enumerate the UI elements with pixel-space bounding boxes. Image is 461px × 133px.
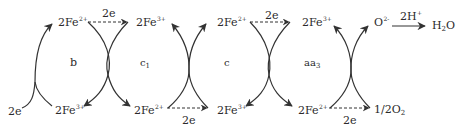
half-oxygen-label: 1/2O2 xyxy=(374,104,405,117)
b-bottom-fe3plus: 2Fe3+ xyxy=(55,104,85,116)
aa3-bottom-fe2plus: 2Fe2+ xyxy=(298,104,328,116)
c1-c-electron-transfer: 2e xyxy=(182,115,196,126)
c1-top-fe3plus: 2Fe3+ xyxy=(136,16,166,28)
c1-bottom-fe2plus: 2Fe2+ xyxy=(134,104,164,116)
aa3-top-fe3plus: 2Fe3+ xyxy=(302,16,332,28)
water-label: H2O xyxy=(432,20,455,33)
arrow-c1-reduction xyxy=(107,22,130,106)
cytochrome-c-label: c xyxy=(224,58,230,68)
b-input-electrons: 2e xyxy=(8,106,22,117)
cytochrome-c1-label: c1 xyxy=(140,58,150,70)
arrow-aa3-oxidation xyxy=(330,26,351,108)
arrow-oxygen-reduction xyxy=(351,26,370,108)
arrow-c-reduction xyxy=(189,24,208,108)
c-top-fe2plus: 2Fe2+ xyxy=(217,16,247,28)
electron-transport-chain-diagram: 2Fe2+ 2Fe3+ 2e b 2e 2Fe3+ 2Fe2+ c1 2e 2F… xyxy=(0,0,461,133)
arrow-b-oxidation xyxy=(84,22,109,106)
oxide-ion-label: O2- xyxy=(374,16,389,28)
aa3-oxygen-electron-transfer: 2e xyxy=(343,115,357,126)
cytochrome-aa3-label: aa3 xyxy=(304,58,320,70)
arrow-b-reduction xyxy=(22,24,52,108)
protons-label: 2H+ xyxy=(400,10,422,22)
b-c1-electron-transfer: 2e xyxy=(102,8,116,19)
arrow-c1-oxidation xyxy=(168,24,189,108)
cytochrome-b-label: b xyxy=(70,57,77,68)
arrow-aa3-reduction xyxy=(268,22,292,106)
arrow-b-return xyxy=(35,82,52,106)
c-bottom-fe3plus: 2Fe3+ xyxy=(217,104,247,116)
c-aa3-electron-transfer: 2e xyxy=(265,10,279,21)
b-top-fe2plus: 2Fe2+ xyxy=(58,16,88,28)
arrow-c-oxidation xyxy=(246,22,270,106)
